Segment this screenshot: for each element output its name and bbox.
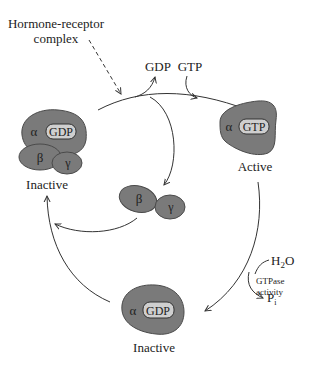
alpha-symbol: α xyxy=(130,303,137,318)
gdp-label: GDP xyxy=(49,125,73,139)
gtp-label: GTP xyxy=(243,120,266,134)
hormone-receptor-label-line1: Hormone-receptor xyxy=(8,16,105,31)
beta-symbol: β xyxy=(136,191,143,206)
inactive-alpha-caption: Inactive xyxy=(133,340,175,355)
alpha-symbol: α xyxy=(31,124,38,139)
g-protein-cycle-diagram: Hormone-receptor complex GDP GTP α GDP β… xyxy=(0,0,326,367)
water-input-line xyxy=(255,260,269,274)
inactive-trimer: α GDP β γ Inactive xyxy=(19,110,86,192)
reassociation-arrow xyxy=(47,196,110,302)
water-label: H2O xyxy=(271,253,294,270)
inactive-trimer-caption: Inactive xyxy=(26,177,68,192)
gdp-released-label: GDP xyxy=(145,59,171,74)
active-alpha: α GTP Active xyxy=(220,101,276,174)
gamma-symbol: γ xyxy=(167,200,174,214)
gtp-bound-label: GTP xyxy=(178,59,203,74)
alpha-symbol: α xyxy=(226,119,233,134)
gamma-symbol: γ xyxy=(64,156,71,170)
dashed-activation-arrow xyxy=(89,40,121,94)
free-beta-gamma: β γ xyxy=(116,182,185,219)
inactive-alpha: α GDP Inactive xyxy=(122,285,184,355)
activation-arrow xyxy=(98,94,248,111)
beta-symbol: β xyxy=(37,150,44,165)
hormone-receptor-label-line2: complex xyxy=(34,31,79,46)
hydrolysis-arrow xyxy=(205,182,260,311)
active-caption: Active xyxy=(238,159,273,174)
gdp-label: GDP xyxy=(146,304,170,318)
beta-gamma-return-arrow xyxy=(55,218,137,232)
gtpase-label-line1-visible: GTPase xyxy=(256,276,285,286)
beta-gamma-release-arrow xyxy=(150,97,174,185)
